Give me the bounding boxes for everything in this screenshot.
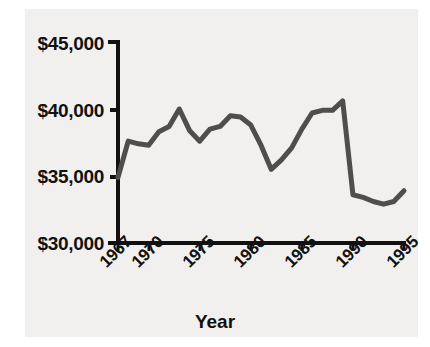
y-tick-label: $40,000: [4, 100, 104, 122]
chart-figure: $45,000 $40,000 $35,000 $30,000 1967 197…: [0, 0, 430, 347]
x-axis-title: Year: [0, 311, 430, 333]
data-series-line: [118, 101, 404, 204]
y-tick-label: $35,000: [4, 166, 104, 188]
y-tick-label: $30,000: [4, 233, 104, 255]
y-tick-label: $45,000: [4, 33, 104, 55]
